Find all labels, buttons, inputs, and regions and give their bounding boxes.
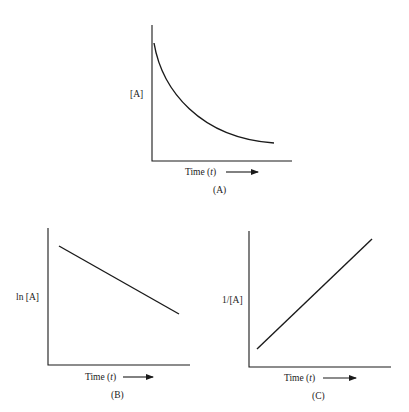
- chart-a-axes: [152, 25, 292, 161]
- chart-a: [A] Time (t) (A): [130, 25, 292, 196]
- chart-b-line: [59, 246, 179, 314]
- chart-c-line: [257, 239, 372, 349]
- chart-c-x-label: Time (t): [284, 373, 315, 384]
- chart-c-y-label: 1/[A]: [222, 295, 243, 305]
- chart-b-axes: [48, 228, 190, 365]
- chart-c-caption: (C): [312, 391, 325, 402]
- chart-a-caption: (A): [213, 185, 226, 196]
- chart-c-axes: [249, 231, 391, 367]
- chart-a-decay-curve: [154, 43, 274, 143]
- chart-b-y-label: ln [A]: [16, 292, 39, 302]
- chart-b: ln [A] Time (t) (B): [16, 228, 190, 401]
- chart-c: 1/[A] Time (t) (C): [222, 231, 391, 402]
- chart-b-caption: (B): [111, 390, 124, 401]
- kinetics-figure: [A] Time (t) (A) ln [A] Time (t) (B) 1/[…: [0, 0, 409, 412]
- chart-a-y-label: [A]: [130, 89, 143, 99]
- chart-b-x-label: Time (t): [85, 372, 116, 383]
- chart-a-x-label: Time (t): [185, 167, 216, 178]
